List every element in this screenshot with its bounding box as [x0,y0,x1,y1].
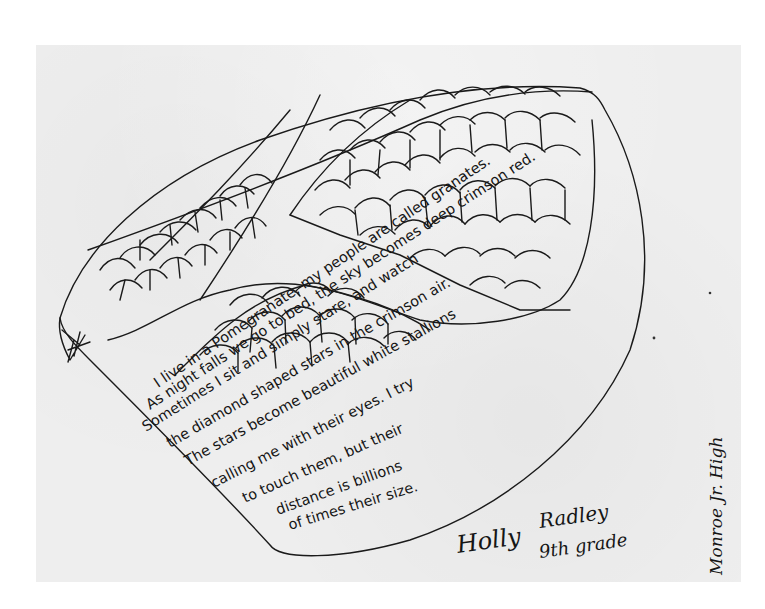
poem: I live in a Pomegranate, my people are c… [139,148,538,533]
author-last-name: Radley [536,499,610,533]
seeds-upper-left [100,175,272,300]
speck [709,292,712,295]
author-grade: 9th grade [538,529,629,562]
author-first-name: Holly [454,522,523,559]
pomegranate-drawing: I live in a Pomegranate, my people are c… [0,0,765,609]
speck [653,337,656,340]
school-name: Monroe Jr. High [706,437,726,576]
